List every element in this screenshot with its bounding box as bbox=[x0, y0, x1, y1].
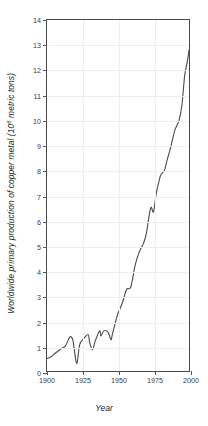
x-axis-tick-label: 1950 bbox=[111, 376, 127, 385]
gridline-horizontal bbox=[47, 45, 189, 46]
gridline-horizontal bbox=[47, 272, 189, 273]
y-axis-tick bbox=[43, 222, 47, 223]
y-axis-tick-label: 4 bbox=[37, 268, 41, 277]
gridline-horizontal bbox=[47, 96, 189, 97]
plot-area: 0123456789101112131419001925195019752000 bbox=[46, 19, 190, 372]
gridline-horizontal bbox=[47, 197, 189, 198]
x-axis-label: Year bbox=[0, 403, 208, 413]
y-axis-tick bbox=[43, 197, 47, 198]
y-axis-tick bbox=[43, 45, 47, 46]
chart-figure: Worldwide primary production of copper m… bbox=[0, 0, 208, 426]
gridline-horizontal bbox=[47, 222, 189, 223]
gridline-horizontal bbox=[47, 146, 189, 147]
x-axis-tick-label: 1925 bbox=[75, 376, 91, 385]
x-axis-tick-label: 1900 bbox=[39, 376, 55, 385]
copper-production-line bbox=[47, 50, 189, 363]
y-axis-tick-label: 6 bbox=[37, 217, 41, 226]
y-axis-tick-label: 5 bbox=[37, 242, 41, 251]
y-axis-tick bbox=[43, 20, 47, 21]
y-axis-tick bbox=[43, 171, 47, 172]
gridline-vertical bbox=[119, 20, 120, 371]
gridline-vertical bbox=[83, 20, 84, 371]
x-axis-tick bbox=[119, 371, 120, 375]
y-axis-tick bbox=[43, 323, 47, 324]
y-axis-tick-label: 7 bbox=[37, 192, 41, 201]
y-axis-tick-label: 8 bbox=[37, 167, 41, 176]
y-axis-tick bbox=[43, 297, 47, 298]
y-axis-tick bbox=[43, 272, 47, 273]
gridline-horizontal bbox=[47, 348, 189, 349]
y-axis-label-prefix: Worldwide primary production of copper m… bbox=[6, 124, 16, 314]
y-axis-label-exponent: 6 bbox=[6, 120, 12, 123]
y-axis-tick bbox=[43, 348, 47, 349]
y-axis-tick bbox=[43, 247, 47, 248]
y-axis-tick bbox=[43, 96, 47, 97]
y-axis-tick-label: 14 bbox=[33, 16, 41, 25]
y-axis-tick bbox=[43, 121, 47, 122]
gridline-horizontal bbox=[47, 297, 189, 298]
x-axis-tick bbox=[155, 371, 156, 375]
y-axis-label: Worldwide primary production of copper m… bbox=[6, 7, 17, 379]
gridline-vertical bbox=[155, 20, 156, 371]
y-axis-tick-label: 1 bbox=[37, 343, 41, 352]
y-axis-tick-label: 2 bbox=[37, 318, 41, 327]
y-axis-tick-label: 9 bbox=[37, 142, 41, 151]
gridline-horizontal bbox=[47, 247, 189, 248]
x-axis-tick-label: 1975 bbox=[147, 376, 163, 385]
x-axis-tick bbox=[83, 371, 84, 375]
gridline-horizontal bbox=[47, 323, 189, 324]
gridline-horizontal bbox=[47, 171, 189, 172]
x-axis-tick bbox=[191, 371, 192, 375]
y-axis-label-container: Worldwide primary production of copper m… bbox=[0, 0, 22, 392]
y-axis-tick-label: 11 bbox=[34, 91, 41, 100]
gridline-horizontal bbox=[47, 121, 189, 122]
x-axis-tick bbox=[47, 371, 48, 375]
x-axis-tick-label: 2000 bbox=[183, 376, 199, 385]
gridline-horizontal bbox=[47, 70, 189, 71]
line-series-copper-production bbox=[47, 20, 189, 371]
y-axis-label-suffix: metric tons) bbox=[6, 73, 16, 120]
y-axis-tick bbox=[43, 146, 47, 147]
y-axis-tick bbox=[43, 70, 47, 71]
y-axis-tick-label: 13 bbox=[33, 41, 41, 50]
y-axis-tick-label: 12 bbox=[33, 66, 41, 75]
y-axis-tick-label: 3 bbox=[37, 293, 41, 302]
y-axis-tick-label: 10 bbox=[33, 116, 41, 125]
